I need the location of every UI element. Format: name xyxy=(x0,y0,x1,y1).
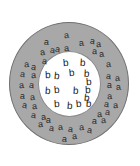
inner-letter-b-1: b xyxy=(80,58,86,68)
outer-letter-a-37: a xyxy=(38,120,44,129)
outer-letter-a-19: a xyxy=(19,81,25,90)
inner-letter-b-13: b xyxy=(67,101,73,111)
inner-letter-b-7: b xyxy=(45,86,51,96)
outer-letter-a-1: a xyxy=(44,38,50,47)
outer-letter-a-44: a xyxy=(62,135,68,144)
outer-letter-a-12: a xyxy=(24,60,29,69)
outer-letter-a-30: a xyxy=(31,111,37,120)
outer-letter-a-21: a xyxy=(107,81,112,90)
outer-letter-a-20: a xyxy=(29,81,35,90)
outer-letter-a-38: a xyxy=(49,124,55,133)
outer-letter-a-11: a xyxy=(42,57,48,66)
inner-letter-b-3: b xyxy=(53,71,60,82)
outer-letter-a-36: a xyxy=(101,116,107,125)
outer-letter-a-39: a xyxy=(57,123,63,133)
outer-letter-a-16: a xyxy=(31,71,37,80)
outer-letter-a-15: a xyxy=(19,70,25,80)
outer-letter-a-8: a xyxy=(50,46,56,55)
inner-letter-b-14: b xyxy=(75,99,82,110)
outer-letter-a-14: a xyxy=(106,60,112,69)
inner-letter-b-2: b xyxy=(45,70,51,80)
outer-letter-a-29: a xyxy=(113,101,119,110)
inner-letter-b-8: b xyxy=(54,85,60,95)
outer-letter-a-43: a xyxy=(72,132,78,141)
letter-distribution-figure: aaaaaaaaaaaaaaaaaaaaaaaaaaaaaaaaaaaaaaaa… xyxy=(0,0,140,166)
inner-letter-b-12: b xyxy=(54,99,60,109)
outer-letter-a-2: a xyxy=(78,39,84,49)
outer-letter-a-0: a xyxy=(64,31,70,40)
inner-letter-b-4: b xyxy=(68,68,75,79)
outer-letter-a-22: a xyxy=(115,83,121,93)
outer-letter-a-9: a xyxy=(92,47,97,56)
inner-letter-b-9: b xyxy=(73,86,79,96)
inner-letter-b-15: b xyxy=(86,99,92,109)
outer-letter-a-6: a xyxy=(64,44,70,53)
outer-letter-a-41: a xyxy=(79,123,84,132)
